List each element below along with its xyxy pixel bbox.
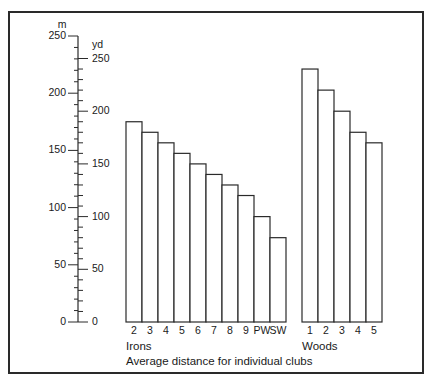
bar-irons-5 bbox=[174, 153, 190, 322]
meter-tick-label: 200 bbox=[48, 86, 66, 98]
bar-woods-3 bbox=[334, 111, 350, 322]
bar-irons-pw bbox=[254, 217, 270, 322]
meter-tick-label: 250 bbox=[48, 29, 66, 41]
category-label: SW bbox=[270, 324, 287, 336]
group-label-woods: Woods bbox=[302, 340, 338, 352]
group-label-irons: Irons bbox=[126, 340, 152, 352]
bar-irons-8 bbox=[222, 185, 238, 322]
category-label: 2 bbox=[323, 324, 329, 336]
category-label: 4 bbox=[163, 324, 169, 336]
bar-woods-4 bbox=[350, 132, 366, 322]
bar-woods-5 bbox=[366, 143, 382, 322]
bar-irons-2 bbox=[126, 122, 142, 322]
bar-woods-2 bbox=[318, 90, 334, 322]
category-label: 3 bbox=[339, 324, 345, 336]
category-label: 5 bbox=[371, 324, 377, 336]
category-label: 8 bbox=[227, 324, 233, 336]
yard-tick-label: 150 bbox=[92, 157, 110, 169]
bar-irons-6 bbox=[190, 164, 206, 322]
category-label: PW bbox=[254, 324, 271, 336]
chart-caption: Average distance for individual clubs bbox=[126, 355, 313, 367]
category-label: 3 bbox=[147, 324, 153, 336]
category-label: 7 bbox=[211, 324, 217, 336]
bar-chart: 050100150200250m050100150200250yd2345678… bbox=[0, 0, 430, 381]
meter-tick-label: 0 bbox=[60, 315, 66, 327]
meter-tick-label: 50 bbox=[54, 258, 66, 270]
bar-woods-1 bbox=[302, 69, 318, 322]
bar-irons-7 bbox=[206, 174, 222, 322]
meter-tick-label: 100 bbox=[48, 201, 66, 213]
bar-irons-sw bbox=[270, 238, 286, 322]
category-label: 6 bbox=[195, 324, 201, 336]
yard-tick-label: 50 bbox=[92, 262, 104, 274]
category-label: 1 bbox=[307, 324, 313, 336]
yard-tick-label: 250 bbox=[92, 52, 110, 64]
yard-tick-label: 100 bbox=[92, 210, 110, 222]
bar-irons-4 bbox=[158, 143, 174, 322]
bar-irons-9 bbox=[238, 196, 254, 322]
yard-tick-label: 200 bbox=[92, 104, 110, 116]
category-label: 5 bbox=[179, 324, 185, 336]
yard-unit-label: yd bbox=[92, 38, 103, 50]
bar-irons-3 bbox=[142, 132, 158, 322]
yard-tick-label: 0 bbox=[92, 315, 98, 327]
category-label: 2 bbox=[131, 324, 137, 336]
category-label: 9 bbox=[243, 324, 249, 336]
category-label: 4 bbox=[355, 324, 361, 336]
meter-unit-label: m bbox=[58, 18, 67, 30]
meter-tick-label: 150 bbox=[48, 143, 66, 155]
